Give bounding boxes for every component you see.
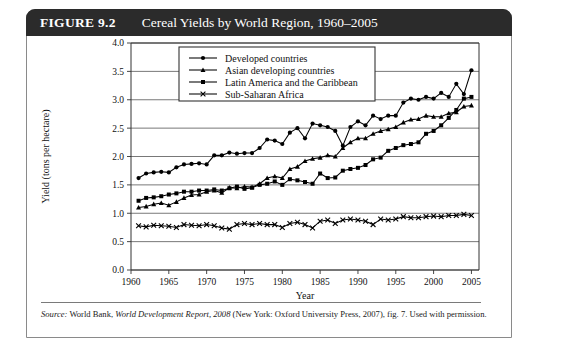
- data-point-2-18: [273, 179, 277, 183]
- data-point-0-10: [212, 153, 216, 157]
- data-point-0-11: [220, 153, 224, 157]
- source-divider: [41, 302, 481, 303]
- data-point-2-9: [205, 189, 209, 193]
- data-point-2-24: [318, 172, 322, 176]
- x-axis-tick-label: 1975: [235, 277, 254, 287]
- source-label: Source:: [41, 309, 67, 319]
- figure-container: FIGURE 9.2 Cereal Yields by World Region…: [26, 9, 512, 338]
- data-point-2-31: [371, 157, 375, 161]
- y-axis-tick-label: 3.0: [112, 95, 124, 105]
- data-point-0-16: [258, 146, 262, 150]
- data-point-1-34: [393, 124, 398, 129]
- data-point-0-2: [152, 170, 156, 174]
- figure-title-bar: FIGURE 9.2 Cereal Yields by World Region…: [26, 9, 512, 36]
- data-point-2-14: [242, 187, 246, 191]
- data-point-2-17: [265, 182, 269, 186]
- x-axis-tick-label: 1965: [159, 277, 178, 287]
- data-point-2-0: [137, 199, 141, 203]
- legend-marker-0: [201, 56, 205, 60]
- data-point-2-23: [311, 182, 315, 186]
- legend-label-2: Latin America and the Caribbean: [225, 77, 358, 88]
- data-point-2-12: [227, 186, 231, 190]
- legend-marker-2: [201, 80, 205, 84]
- data-point-3-19: [280, 225, 285, 230]
- data-point-3-26: [333, 221, 338, 226]
- data-point-0-3: [159, 170, 163, 174]
- data-point-2-20: [288, 177, 292, 181]
- data-point-0-21: [295, 126, 299, 130]
- data-point-2-32: [379, 156, 383, 160]
- source-text-part1: World Bank,: [67, 309, 115, 319]
- data-point-0-41: [447, 95, 451, 99]
- data-point-2-11: [220, 189, 224, 193]
- data-point-0-7: [189, 162, 193, 166]
- data-point-0-29: [356, 119, 360, 123]
- data-point-2-33: [386, 149, 390, 153]
- y-axis-tick-label: 4.0: [112, 38, 124, 48]
- data-point-0-17: [265, 137, 269, 141]
- data-point-0-28: [348, 125, 352, 129]
- figure-number: FIGURE 9.2: [40, 15, 116, 31]
- data-point-2-37: [416, 140, 420, 144]
- data-point-2-10: [212, 187, 216, 191]
- data-point-2-42: [454, 108, 458, 112]
- data-point-0-39: [432, 97, 436, 101]
- data-point-2-19: [280, 183, 284, 187]
- data-point-0-40: [439, 91, 443, 95]
- data-point-0-26: [333, 129, 337, 133]
- x-axis-tick-label: 1995: [386, 277, 405, 287]
- series-line-3: [139, 214, 472, 229]
- data-point-2-44: [469, 95, 473, 99]
- data-point-2-39: [432, 129, 436, 133]
- data-point-0-31: [371, 114, 375, 118]
- data-point-2-26: [333, 175, 337, 179]
- figure-title: Cereal Yields by World Region, 1960–2005: [142, 15, 378, 31]
- x-axis-tick-label: 1980: [273, 277, 292, 287]
- data-point-2-5: [174, 191, 178, 195]
- x-axis-title: Year: [296, 290, 315, 299]
- data-point-0-24: [318, 123, 322, 127]
- data-point-3-23: [310, 226, 315, 231]
- x-axis-tick-label: 2000: [424, 277, 443, 287]
- data-point-2-13: [235, 185, 239, 189]
- data-point-2-36: [409, 142, 413, 146]
- data-point-1-44: [469, 103, 474, 108]
- data-point-0-42: [454, 82, 458, 86]
- x-axis-tick-label: 1990: [348, 277, 367, 287]
- data-point-0-37: [416, 98, 420, 102]
- data-point-2-6: [182, 190, 186, 194]
- data-point-0-1: [144, 171, 148, 175]
- data-point-0-19: [280, 142, 284, 146]
- data-point-0-32: [379, 117, 383, 121]
- data-point-0-0: [136, 176, 140, 180]
- source-text-part2: (New York: Oxford University Press, 2007…: [230, 309, 486, 319]
- source-note: Source: World Bank, World Development Re…: [41, 302, 493, 321]
- data-point-0-14: [242, 151, 246, 155]
- y-axis-tick-label: 2.5: [112, 124, 124, 134]
- legend-label-0: Developed countries: [225, 53, 308, 64]
- data-point-0-36: [409, 97, 413, 101]
- data-point-2-43: [462, 97, 466, 101]
- data-point-1-3: [159, 200, 164, 205]
- source-publication-title: World Development Report, 2008: [115, 309, 230, 319]
- data-point-1-5: [174, 199, 179, 204]
- data-point-3-31: [371, 222, 376, 227]
- data-point-2-40: [439, 123, 443, 127]
- data-point-0-35: [401, 100, 405, 104]
- data-point-2-28: [348, 167, 352, 171]
- data-point-2-15: [250, 186, 254, 190]
- data-point-0-18: [273, 139, 277, 143]
- x-axis-tick-label: 1960: [122, 277, 141, 287]
- y-axis-tick-label: 3.5: [112, 67, 124, 77]
- data-point-0-25: [326, 125, 330, 129]
- data-point-2-16: [258, 183, 262, 187]
- data-point-0-33: [386, 114, 390, 118]
- data-point-2-4: [167, 193, 171, 197]
- y-axis-title: Yield (tons per hectare): [40, 109, 52, 203]
- data-point-1-38: [424, 113, 429, 118]
- data-point-2-2: [152, 195, 156, 199]
- data-point-0-6: [182, 162, 186, 166]
- data-point-2-1: [144, 196, 148, 200]
- data-point-0-12: [227, 150, 231, 154]
- data-point-0-9: [205, 162, 209, 166]
